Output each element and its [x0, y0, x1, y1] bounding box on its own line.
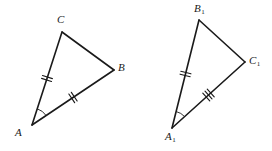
side-b1c1: [199, 20, 245, 62]
vertex-label-b: B: [118, 62, 125, 73]
vertex-label-subscript: 1: [172, 136, 176, 144]
side-ab: [32, 70, 114, 125]
angle-a-arc-1: [37, 109, 46, 116]
figure-svg: [0, 0, 272, 151]
vertex-label-a1: A1: [165, 131, 175, 142]
side-ac: [32, 32, 62, 125]
angle-a1-arc-group: [176, 112, 184, 117]
vertex-label-c1: C1: [249, 55, 260, 66]
vertex-label-subscript: 1: [257, 60, 261, 68]
right-triangle: [172, 20, 245, 128]
geometry-diagram-canvas: ACBA1B1C1: [0, 0, 272, 151]
angle-a1-arc-1: [176, 112, 184, 117]
vertex-label-subscript: 1: [201, 8, 205, 16]
left-triangle: [32, 32, 114, 125]
triangles-group: [32, 20, 245, 128]
vertex-label-a: A: [15, 127, 22, 138]
vertex-label-b1: B1: [194, 3, 204, 14]
angle-a-arc-group: [37, 109, 46, 116]
side-cb: [62, 32, 114, 70]
vertex-label-c: C: [57, 14, 64, 25]
